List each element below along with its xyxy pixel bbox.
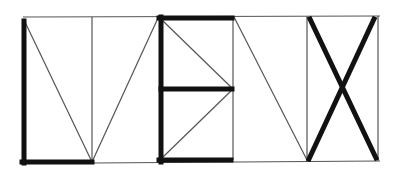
n-diagonal [234, 17, 307, 160]
bottom-border [92, 161, 380, 163]
e-diagonal-top [163, 21, 233, 89]
letter-construction-diagram [0, 0, 397, 177]
l-diagonal-1 [25, 22, 92, 162]
thick-letter-strokes [22, 17, 376, 163]
l-diagonal-2 [92, 18, 158, 162]
diagram-svg [0, 0, 397, 177]
e-diagonal-bottom [163, 89, 233, 157]
